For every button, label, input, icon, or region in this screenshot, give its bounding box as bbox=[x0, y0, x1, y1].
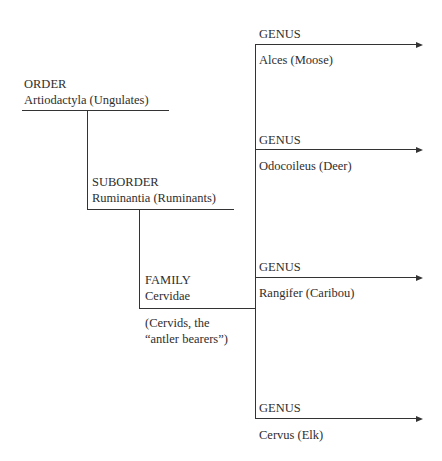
genus-arrow-line bbox=[255, 277, 417, 278]
genus-arrow-line bbox=[255, 44, 417, 45]
genus-rank-label: GENUS bbox=[259, 26, 301, 42]
family-note-line2: “antler bearers”) bbox=[145, 331, 228, 347]
arrow-right-icon bbox=[416, 42, 423, 48]
family-underline bbox=[139, 308, 255, 309]
genus-name-label: Alces (Moose) bbox=[259, 52, 333, 68]
arrow-right-icon bbox=[416, 147, 423, 153]
family-rank-label: FAMILY bbox=[145, 272, 191, 288]
family-note-line1: (Cervids, the bbox=[145, 315, 210, 331]
suborder-to-family-connector bbox=[139, 209, 140, 309]
arrow-right-icon bbox=[416, 416, 423, 422]
genus-trunk-line bbox=[255, 44, 256, 419]
order-underline bbox=[22, 110, 169, 111]
family-name-label: Cervidae bbox=[145, 288, 190, 304]
order-rank-label: ORDER bbox=[24, 76, 66, 92]
genus-name-label: Rangifer (Caribou) bbox=[259, 285, 354, 301]
order-name-label: Artiodactyla (Ungulates) bbox=[24, 92, 149, 108]
genus-rank-label: GENUS bbox=[259, 400, 301, 416]
genus-rank-label: GENUS bbox=[259, 132, 301, 148]
order-to-suborder-connector bbox=[87, 110, 88, 210]
suborder-name-label: Ruminantia (Ruminants) bbox=[92, 190, 216, 206]
genus-name-label: Cervus (Elk) bbox=[259, 427, 323, 443]
genus-arrow-line bbox=[255, 418, 417, 419]
suborder-underline bbox=[87, 209, 234, 210]
genus-arrow-line bbox=[255, 149, 417, 150]
suborder-rank-label: SUBORDER bbox=[92, 174, 159, 190]
genus-name-label: Odocoileus (Deer) bbox=[259, 158, 352, 174]
arrow-right-icon bbox=[416, 275, 423, 281]
genus-rank-label: GENUS bbox=[259, 259, 301, 275]
